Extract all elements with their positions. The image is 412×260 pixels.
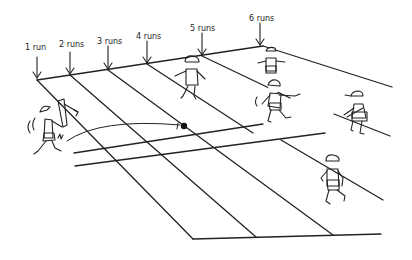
label-5-runs: 5 runs xyxy=(190,24,215,33)
label-2-runs: 2 runs xyxy=(59,40,84,49)
arrow-down-icon xyxy=(256,23,264,45)
batsman-swinging-icon xyxy=(28,99,78,154)
right-edge-line xyxy=(263,46,392,87)
pitch-line-upper xyxy=(74,124,263,153)
cricket-ball-icon xyxy=(181,123,187,129)
lane-line-1 xyxy=(37,80,193,239)
label-4-runs: 4 runs xyxy=(136,32,161,41)
fielder-crouching-icon xyxy=(344,91,367,134)
diagram-canvas xyxy=(0,0,412,260)
arrow-down-icon xyxy=(66,52,74,74)
trajectory-arc xyxy=(67,123,180,141)
bottom-baseline xyxy=(193,234,381,239)
fielder-running-front-icon xyxy=(321,155,345,204)
lane-line-4-lower xyxy=(281,140,383,200)
arrow-down-icon xyxy=(143,41,151,63)
field-lines xyxy=(37,46,392,239)
arrow-down-icon xyxy=(33,57,41,78)
cricket-runs-diagram: 1 run 2 runs 3 runs 4 runs 5 runs 6 runs xyxy=(0,0,412,260)
lane-line-2 xyxy=(70,75,256,237)
lane-line-5-lower xyxy=(334,114,390,136)
top-baseline xyxy=(37,46,263,80)
arrow-down-icon xyxy=(104,46,112,69)
label-6-runs: 6 runs xyxy=(249,14,274,23)
label-3-runs: 3 runs xyxy=(97,37,122,46)
label-1-run: 1 run xyxy=(25,43,46,52)
fielder-diving-icon xyxy=(256,80,301,122)
motion-mark xyxy=(177,123,178,129)
arrow-down-icon xyxy=(198,33,206,55)
